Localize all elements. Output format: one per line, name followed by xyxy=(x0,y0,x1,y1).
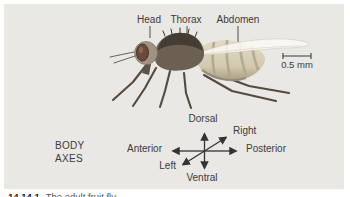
label-right: Right xyxy=(233,125,256,136)
label-ventral: Ventral xyxy=(186,172,217,183)
body-axes-heading: BODY AXES xyxy=(55,140,85,165)
label-thorax: Thorax xyxy=(170,14,201,25)
scale-bar-label: 0.5 mm xyxy=(281,59,313,70)
caption-text: The adult fruit fly xyxy=(46,191,116,197)
body-axes-heading-line1: BODY xyxy=(55,140,85,153)
caption-clipped: 14.14.1The adult fruit fly xyxy=(8,191,116,197)
label-head: Head xyxy=(137,14,161,25)
caption-figure-number: 14.14.1 xyxy=(8,191,40,197)
figure: Head Thorax Abdomen 0.5 mm BODY AXES Dor… xyxy=(0,0,350,197)
label-abdomen: Abdomen xyxy=(217,14,260,25)
label-left: Left xyxy=(159,160,176,171)
label-dorsal: Dorsal xyxy=(189,113,218,124)
label-posterior: Posterior xyxy=(246,143,286,154)
label-anterior: Anterior xyxy=(127,143,162,154)
body-axes-heading-line2: AXES xyxy=(55,153,85,166)
